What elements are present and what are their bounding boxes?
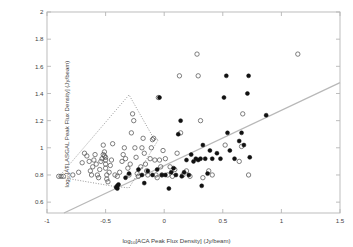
y-tick-label: 2 xyxy=(40,8,44,15)
data-point-filled xyxy=(163,173,167,177)
data-point-open xyxy=(71,173,75,177)
data-point-open xyxy=(106,180,110,184)
data-point-filled xyxy=(127,172,131,176)
data-point-filled xyxy=(187,173,191,177)
data-point-open xyxy=(151,136,155,140)
data-point-filled xyxy=(169,170,173,174)
data-point-filled xyxy=(245,91,249,95)
data-point-filled xyxy=(208,149,212,153)
data-point-filled xyxy=(264,113,268,117)
data-point-filled xyxy=(206,172,210,176)
data-point-open xyxy=(101,143,105,147)
data-point-open xyxy=(175,151,179,155)
data-point-open xyxy=(109,158,113,162)
data-point-open xyxy=(126,166,130,170)
data-point-filled xyxy=(140,173,144,177)
data-point-open xyxy=(143,162,147,166)
data-point-filled xyxy=(150,173,154,177)
data-point-open xyxy=(87,159,91,163)
x-tick-label: 0.5 xyxy=(218,217,227,224)
data-point-open xyxy=(142,151,146,155)
data-point-open xyxy=(101,152,105,156)
data-point-filled xyxy=(116,182,120,186)
one-to-one-trend-line xyxy=(64,83,340,213)
data-point-open xyxy=(122,146,126,150)
data-point-open xyxy=(117,170,121,174)
data-point-open xyxy=(155,175,159,179)
data-point-open xyxy=(92,158,96,162)
data-point-open xyxy=(96,175,100,179)
x-tick-label: 0 xyxy=(162,217,166,224)
data-point-open xyxy=(123,156,127,160)
data-point-filled xyxy=(248,155,252,159)
data-point-filled xyxy=(242,143,246,147)
data-point-open xyxy=(296,52,300,56)
plot-frame xyxy=(47,12,340,213)
data-point-filled xyxy=(172,166,176,170)
scatter-plot: -1-0.500.511.50.60.811.21.41.61.82 xyxy=(0,0,353,247)
data-point-filled xyxy=(180,174,184,178)
data-point-open xyxy=(153,158,157,162)
data-point-open xyxy=(237,159,241,163)
x-tick-label: 1.5 xyxy=(336,217,345,224)
data-point-filled xyxy=(201,143,205,147)
data-point-filled xyxy=(199,157,203,161)
data-point-open xyxy=(110,142,114,146)
data-point-open xyxy=(201,175,205,179)
y-tick-label: 1.2 xyxy=(35,117,44,124)
x-tick-label: 1 xyxy=(280,217,284,224)
data-point-filled xyxy=(247,74,251,78)
data-point-open xyxy=(99,159,103,163)
data-point-open xyxy=(108,163,112,167)
data-point-filled xyxy=(224,74,228,78)
data-point-open xyxy=(163,156,167,160)
y-tick-label: 1.4 xyxy=(35,90,44,97)
data-point-open xyxy=(132,118,136,122)
x-axis-label: log10[ACA Peak Flux Density] (Jy/beam) xyxy=(0,237,353,244)
data-point-filled xyxy=(184,158,188,162)
data-point-open xyxy=(223,143,227,147)
data-point-filled xyxy=(233,157,237,161)
data-point-open xyxy=(133,146,137,150)
data-point-open xyxy=(140,146,144,150)
data-point-open xyxy=(94,162,98,166)
data-point-open xyxy=(241,112,245,116)
data-point-filled xyxy=(222,96,226,100)
data-point-open xyxy=(196,74,200,78)
data-point-open xyxy=(246,173,250,177)
y-tick-label: 0.8 xyxy=(35,171,44,178)
data-point-open xyxy=(130,112,134,116)
data-point-filled xyxy=(182,170,186,174)
data-point-open xyxy=(76,170,80,174)
data-point-filled xyxy=(210,157,214,161)
data-point-filled xyxy=(167,187,171,191)
y-tick-label: 1.8 xyxy=(35,35,44,42)
data-point-filled xyxy=(189,153,193,157)
data-point-filled xyxy=(174,173,178,177)
data-point-open xyxy=(80,161,84,165)
data-point-filled xyxy=(158,96,162,100)
data-point-open xyxy=(121,152,125,156)
data-point-open xyxy=(161,148,165,152)
data-point-filled xyxy=(225,131,229,135)
data-point-open xyxy=(107,170,111,174)
data-point-filled xyxy=(240,131,244,135)
data-point-open xyxy=(93,152,97,156)
data-point-open xyxy=(89,173,93,177)
data-point-filled xyxy=(215,151,219,155)
data-point-open xyxy=(135,171,139,175)
x-tick-label: -1 xyxy=(44,217,50,224)
data-point-open xyxy=(198,118,202,122)
data-point-open xyxy=(195,52,199,56)
data-point-filled xyxy=(237,139,241,143)
data-point-open xyxy=(148,156,152,160)
data-point-filled xyxy=(142,181,146,185)
data-point-filled xyxy=(146,169,150,173)
data-point-filled xyxy=(124,176,128,180)
data-point-filled xyxy=(200,184,204,188)
y-tick-label: 0.6 xyxy=(35,198,44,205)
data-point-open xyxy=(95,173,99,177)
data-point-open xyxy=(134,155,138,159)
data-point-open xyxy=(177,74,181,78)
y-tick-label: 1 xyxy=(40,144,44,151)
